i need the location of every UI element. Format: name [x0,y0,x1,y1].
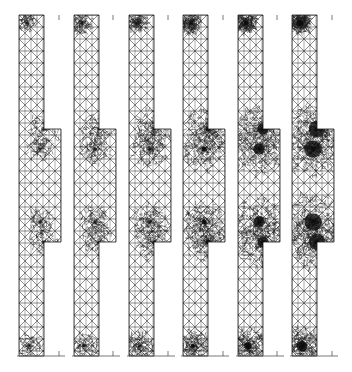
mesh-panel-6 [0,0,352,372]
